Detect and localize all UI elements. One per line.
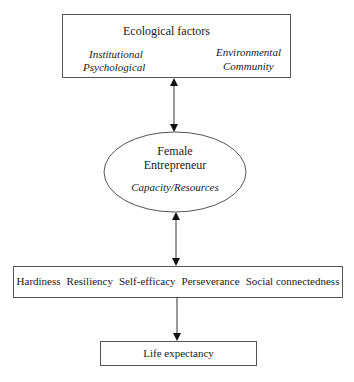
ecological-factors-box: Ecological factors Institutional Psychol… <box>62 14 291 78</box>
entrepreneur-line2: Entrepreneur <box>104 158 246 173</box>
entrepreneur-line1: Female <box>104 144 246 159</box>
ecological-title: Ecological factors <box>123 24 210 39</box>
trait-hardiness: Hardiness <box>17 275 61 287</box>
factor-institutional: Institutional <box>89 48 143 60</box>
female-entrepreneur-node: Female Entrepreneur Capacity/Resources <box>104 132 246 212</box>
trait-self-efficacy: Self-efficacy <box>119 275 176 287</box>
factor-psychological: Psychological <box>83 61 145 73</box>
entrepreneur-subtitle: Capacity/Resources <box>104 181 246 193</box>
factor-environmental: Environmental <box>216 46 281 58</box>
trait-resiliency: Resiliency <box>67 275 113 287</box>
factor-community: Community <box>223 60 274 72</box>
outcome-label: Life expectancy <box>101 347 256 359</box>
trait-perseverance: Perseverance <box>182 275 240 287</box>
traits-box: Hardiness Resiliency Self-efficacy Perse… <box>13 266 343 298</box>
trait-social-connectedness: Social connectedness <box>246 275 340 287</box>
life-expectancy-box: Life expectancy <box>100 341 257 366</box>
